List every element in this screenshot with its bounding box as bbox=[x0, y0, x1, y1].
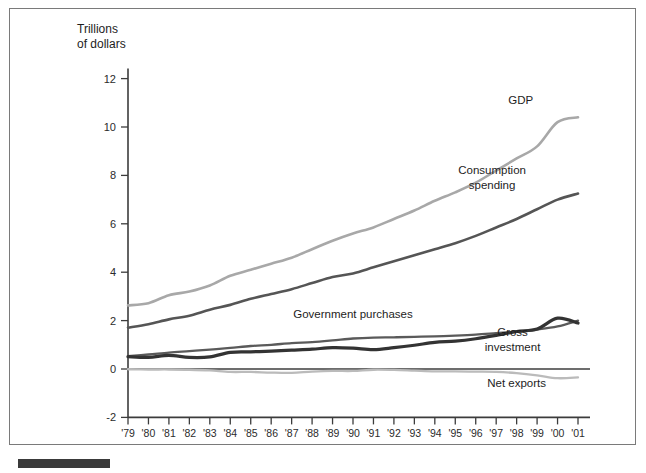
x-axis-tick-label: '93 bbox=[408, 427, 422, 439]
x-axis-tick-label: '89 bbox=[326, 427, 340, 439]
x-axis-tick-label: '97 bbox=[489, 427, 503, 439]
x-axis-tick-label: '98 bbox=[510, 427, 524, 439]
series-label-consumption-line2: spending bbox=[469, 179, 516, 191]
x-axis-tick-label: '90 bbox=[346, 427, 360, 439]
chart-area: -2024681012'79'80'81'82'83'84'85'86'87'8… bbox=[10, 9, 637, 446]
x-axis-tick-label: '91 bbox=[367, 427, 381, 439]
figure-frame: -2024681012'79'80'81'82'83'84'85'86'87'8… bbox=[9, 8, 636, 445]
x-axis-tick-label: '95 bbox=[448, 427, 462, 439]
x-axis-tick-label: '84 bbox=[223, 427, 237, 439]
x-axis-tick-label: '81 bbox=[162, 427, 176, 439]
x-axis-tick-label: '79 bbox=[121, 427, 135, 439]
x-axis-tick-label: '85 bbox=[244, 427, 258, 439]
y-axis-tick-label: -2 bbox=[106, 411, 116, 423]
x-axis-tick-label: '87 bbox=[285, 427, 299, 439]
series-line-gdp bbox=[128, 117, 578, 305]
x-axis-tick-label: '94 bbox=[428, 427, 442, 439]
y-axis-tick-label: 6 bbox=[110, 218, 116, 230]
x-axis-tick-label: '88 bbox=[305, 427, 319, 439]
x-axis-tick-label: '83 bbox=[203, 427, 217, 439]
x-axis-tick-label: '00 bbox=[551, 427, 565, 439]
series-label-gdp: GDP bbox=[508, 94, 533, 106]
y-axis-tick-label: 0 bbox=[110, 363, 116, 375]
y-axis-title-line1: Trillions bbox=[77, 22, 118, 36]
series-label-gross-line2: investment bbox=[485, 341, 541, 353]
series-label-net-exports: Net exports bbox=[487, 377, 546, 389]
y-axis-tick-label: 4 bbox=[110, 266, 116, 278]
x-axis-tick-label: '92 bbox=[387, 427, 401, 439]
x-axis-tick-label: '96 bbox=[469, 427, 483, 439]
x-axis-tick-label: '80 bbox=[142, 427, 156, 439]
x-axis-tick-label: '01 bbox=[571, 427, 585, 439]
page-footer-bar bbox=[18, 459, 110, 468]
series-label-gross-line1: Gross bbox=[497, 326, 528, 338]
x-axis-title: Year bbox=[582, 444, 606, 446]
y-axis-title-line2: of dollars bbox=[77, 37, 126, 51]
line-chart-svg: -2024681012'79'80'81'82'83'84'85'86'87'8… bbox=[10, 9, 637, 446]
y-axis-tick-label: 2 bbox=[110, 315, 116, 327]
series-label-government-purchases: Government purchases bbox=[293, 308, 413, 320]
x-axis-tick-label: '86 bbox=[264, 427, 278, 439]
x-axis-tick-label: '82 bbox=[183, 427, 197, 439]
series-label-consumption-line1: Consumption bbox=[458, 164, 526, 176]
x-axis-tick-label: '99 bbox=[530, 427, 544, 439]
y-axis-tick-label: 12 bbox=[104, 73, 116, 85]
y-axis-tick-label: 8 bbox=[110, 169, 116, 181]
y-axis-tick-label: 10 bbox=[104, 121, 116, 133]
